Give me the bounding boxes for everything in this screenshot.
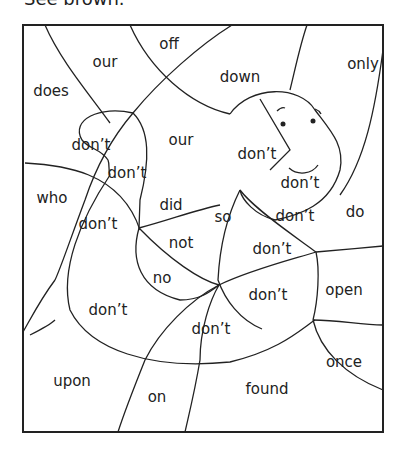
word-label[interactable]: don’t [276, 207, 315, 225]
word-label[interactable]: don’t [249, 286, 288, 304]
word-label[interactable]: does [33, 82, 69, 100]
word-label[interactable]: our [93, 53, 118, 71]
word-label[interactable]: our [169, 131, 194, 149]
word-label[interactable]: found [246, 380, 289, 398]
word-label[interactable]: only [347, 55, 379, 73]
word-label[interactable]: don’t [253, 240, 292, 258]
word-label[interactable]: don’t [238, 145, 277, 163]
word-label[interactable]: don’t [281, 174, 320, 192]
word-label[interactable]: don’t [79, 215, 118, 233]
word-label[interactable]: no [153, 269, 172, 287]
word-label[interactable]: upon [53, 372, 91, 390]
word-label[interactable]: don’t [192, 320, 231, 338]
word-label[interactable]: so [215, 208, 232, 226]
word-label[interactable]: down [220, 68, 260, 86]
word-label[interactable]: not [169, 234, 194, 252]
word-label[interactable]: don’t [89, 301, 128, 319]
word-label[interactable]: do [346, 203, 365, 221]
word-label[interactable]: don’t [72, 136, 111, 154]
word-label[interactable]: who [37, 189, 68, 207]
word-label[interactable]: on [148, 388, 167, 406]
word-label[interactable]: open [325, 281, 362, 299]
word-label[interactable]: don’t [108, 164, 147, 182]
word-label[interactable]: once [326, 353, 362, 371]
word-label[interactable]: off [159, 35, 179, 53]
word-label[interactable]: did [159, 196, 182, 214]
